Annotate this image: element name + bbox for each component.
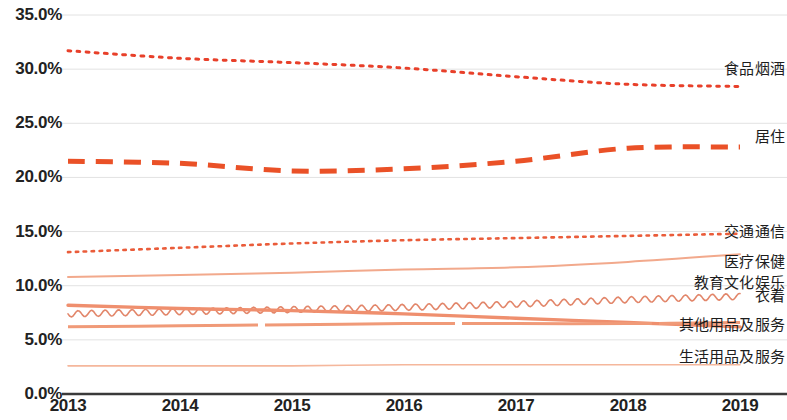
series-label: 衣着 [755, 284, 785, 305]
x-tick-label: 2015 [274, 396, 311, 416]
series-line [68, 254, 740, 277]
chart-plot-area [0, 0, 787, 420]
series-label: 食品烟酒 [724, 56, 785, 77]
series-label: 居住 [755, 125, 785, 146]
x-tick-label: 2014 [162, 396, 199, 416]
x-tick-label: 2019 [722, 396, 759, 416]
series-line [68, 234, 740, 252]
series-label: 其他用品及服务 [679, 312, 785, 333]
x-tick-label: 2017 [498, 396, 535, 416]
x-tick-label: 2018 [610, 396, 647, 416]
y-tick-label: 20.0% [15, 167, 62, 187]
x-tick-label: 2013 [50, 396, 87, 416]
y-tick-label: 5.0% [24, 330, 62, 350]
series-line [68, 365, 740, 366]
y-axis-tick-labels: 0.0%5.0%10.0%15.0%20.0%25.0%30.0%35.0% [0, 0, 62, 420]
y-tick-label: 35.0% [15, 5, 62, 25]
series-line [68, 51, 740, 87]
y-tick-label: 15.0% [15, 222, 62, 242]
series-line [68, 147, 740, 171]
series-label: 生活用品及服务 [679, 345, 785, 366]
y-tick-label: 25.0% [15, 113, 62, 133]
series-line [68, 323, 740, 327]
y-tick-label: 30.0% [15, 59, 62, 79]
line-chart: 0.0%5.0%10.0%15.0%20.0%25.0%30.0%35.0% 2… [0, 0, 787, 420]
x-tick-label: 2016 [386, 396, 423, 416]
series-layer [68, 51, 740, 366]
gridlines [62, 15, 787, 340]
series-label: 交通通信 [724, 220, 785, 241]
series-label: 医疗保健 [724, 249, 785, 270]
y-tick-label: 10.0% [15, 276, 62, 296]
